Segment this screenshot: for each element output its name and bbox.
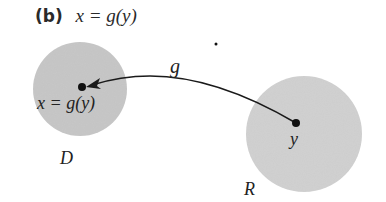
stray-dot: [215, 43, 218, 46]
point-y-label: y: [288, 129, 298, 149]
mapping-diagram: g x = g(y) y D R: [0, 0, 386, 202]
range-circle: [246, 76, 362, 192]
point-x: [78, 83, 86, 91]
point-x-label: x = g(y): [36, 93, 95, 114]
domain-label: D: [59, 148, 73, 168]
range-label: R: [243, 179, 255, 199]
mapping-label: g: [170, 55, 180, 78]
point-y: [292, 119, 300, 127]
